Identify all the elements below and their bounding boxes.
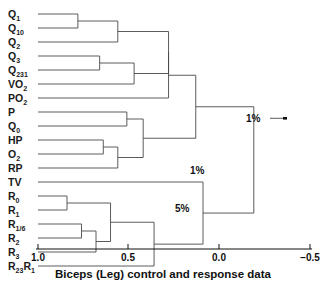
- leaf-label-R3: R3: [8, 246, 20, 260]
- dendrogram-canvas: Q1 Q10 Q2 Q3 Q231 VO2 PO2 P Q0 HP O2 RP …: [0, 0, 326, 290]
- dendrogram-links: [38, 14, 254, 266]
- annotation-low-5pct: 5%: [175, 203, 190, 214]
- axis-tick-label-1: 0.5: [121, 252, 135, 263]
- leaf-label-Q3: Q3: [8, 50, 20, 64]
- leaf-label-R16: R1/6: [8, 218, 25, 232]
- leaf-labels: Q1 Q10 Q2 Q3 Q231 VO2 PO2 P Q0 HP O2 RP …: [8, 8, 35, 274]
- leaf-label-P: P: [8, 106, 15, 118]
- leaf-label-VO2: VO2: [8, 78, 27, 92]
- axis-tick-label-2: 0.0: [212, 252, 226, 263]
- axis-tick-label-3: −0.5: [300, 252, 320, 263]
- leaf-label-O2: O2: [8, 148, 20, 162]
- axis-tick-label-0: 1.0: [31, 252, 45, 263]
- root-tick-marker: [283, 117, 287, 120]
- leaf-label-Q2: Q2: [8, 36, 20, 50]
- leaf-label-Q231: Q231: [8, 64, 28, 78]
- leaf-label-R0: R0: [8, 190, 20, 204]
- x-axis: 1.00.50.0−0.5: [31, 244, 320, 263]
- leaf-label-HP: HP: [8, 134, 23, 146]
- leaf-label-Q10: Q10: [8, 22, 24, 36]
- leaf-label-R1: R1: [8, 204, 20, 218]
- leaf-label-R2: R2: [8, 232, 20, 246]
- axis-ticks: 1.00.50.0−0.5: [31, 244, 320, 263]
- annotation-mid-1pct: 1%: [190, 165, 205, 176]
- leaf-label-TV: TV: [8, 176, 21, 188]
- leaf-label-PO2: PO2: [8, 92, 27, 106]
- leaf-label-Q0: Q0: [8, 120, 20, 134]
- significance-annotations: 1% 1% 5%: [175, 113, 287, 214]
- figure-caption: Biceps (Leg) control and response data: [55, 268, 272, 280]
- leaf-label-Q1: Q1: [8, 8, 20, 22]
- annotation-root-1pct: 1%: [246, 113, 261, 124]
- leaf-label-RP: RP: [8, 162, 23, 174]
- dendrogram-figure: Q1 Q10 Q2 Q3 Q231 VO2 PO2 P Q0 HP O2 RP …: [0, 0, 326, 290]
